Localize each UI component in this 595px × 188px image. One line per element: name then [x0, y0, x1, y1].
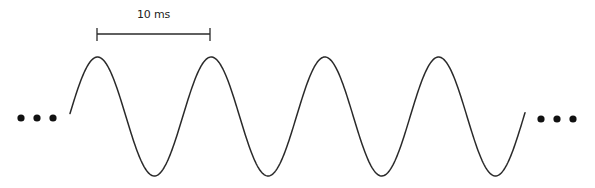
- continuation-dots-left: [17, 114, 56, 121]
- sine-wave: [70, 57, 525, 176]
- continuation-dot-left-2: [33, 114, 40, 121]
- continuation-dot-right-2: [553, 115, 560, 122]
- continuation-dot-right-1: [537, 115, 544, 122]
- continuation-dot-right-3: [569, 115, 576, 122]
- scale-bar: [97, 28, 210, 41]
- continuation-dot-left-1: [17, 114, 24, 121]
- scale-bar-label: 10 ms: [137, 8, 170, 21]
- sine-wave-diagram: [0, 0, 595, 188]
- continuation-dot-left-3: [49, 114, 56, 121]
- continuation-dots-right: [537, 115, 576, 122]
